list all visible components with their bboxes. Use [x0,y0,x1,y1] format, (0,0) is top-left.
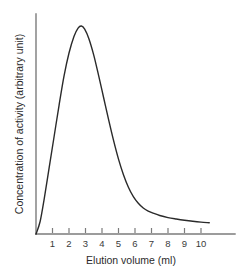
y-axis-title: Concentration of activity (arbitrary uni… [13,34,25,214]
x-axis-tick-label: 6 [132,238,137,249]
x-axis-tick-label: 9 [182,238,187,249]
x-axis-tick-label: 5 [116,238,121,249]
x-axis-tick-label: 10 [196,238,207,249]
x-axis-tick-label: 8 [165,238,170,249]
x-axis-title: Elution volume (ml) [86,254,176,266]
x-axis-tick-label: 1 [50,238,55,249]
x-axis-tick-label: 7 [149,238,154,249]
x-axis-tick-label: 2 [66,238,71,249]
chart-canvas: 12345678910 Elution volume (ml) Concentr… [0,0,242,275]
x-axis-tick-label: 4 [99,238,104,249]
x-axis-tick-label: 3 [83,238,88,249]
elution-profile-chart: 12345678910 Elution volume (ml) Concentr… [0,0,242,275]
